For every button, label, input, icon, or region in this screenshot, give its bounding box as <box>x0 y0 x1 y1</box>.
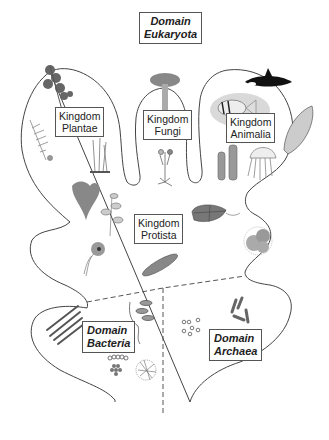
dinoflagellate-icon <box>192 205 240 222</box>
domain-archaea-label: Domain Archaea <box>209 329 262 361</box>
domain-eukaryota-label: Domain Eukaryota <box>139 12 202 44</box>
fern-icon <box>30 120 53 161</box>
flagellate-icon <box>84 242 105 276</box>
archaea-rods-icon <box>232 298 248 322</box>
rod-bacteria-icon <box>47 306 84 344</box>
domain-bacteria-line2: Bacteria <box>87 337 130 350</box>
seaweed-icon <box>72 182 100 221</box>
mushroom-icon <box>150 73 180 110</box>
kingdom-plantae-label: Kingdom Plantae <box>55 107 104 137</box>
sponge-icon <box>218 145 237 180</box>
archaea-cocci-icon <box>182 318 200 336</box>
kingdom-fungi-label: Kingdom Fungi <box>143 110 192 140</box>
domain-archaea-line1: Domain <box>214 332 257 345</box>
jellyfish-icon <box>248 148 276 181</box>
domain-divider <box>87 276 245 302</box>
kingdom-protista-line2: Protista <box>138 229 179 241</box>
domain-eukaryota-line1: Domain <box>144 15 197 28</box>
kingdom-plantae-line1: Kingdom <box>59 110 100 122</box>
kingdom-fungi-line2: Fungi <box>147 125 188 137</box>
mold-icon <box>158 150 173 187</box>
kingdom-plantae-line2: Plantae <box>59 122 100 134</box>
domain-archaea-line2: Archaea <box>214 345 257 358</box>
plant-branch-icon <box>43 65 73 110</box>
cocci-chain-icon <box>108 355 128 360</box>
diatom-icon <box>140 251 180 280</box>
kingdom-animalia-label: Kingdom Animalia <box>226 113 275 143</box>
radiolarian-icon <box>244 227 272 255</box>
clam-icon <box>284 106 313 154</box>
kingdom-protista-label: Kingdom Protista <box>134 214 183 244</box>
cocci-cluster-icon <box>110 364 122 376</box>
domain-bacteria-line1: Domain <box>87 324 130 337</box>
kingdom-protista-line1: Kingdom <box>138 217 179 229</box>
domain-eukaryota-line2: Eukaryota <box>144 28 197 41</box>
orca-icon <box>245 68 292 87</box>
kingdom-animalia-line2: Animalia <box>230 128 271 140</box>
kingdom-animalia-line1: Kingdom <box>230 116 271 128</box>
kingdom-fungi-line1: Kingdom <box>147 113 188 125</box>
domain-bacteria-label: Domain Bacteria <box>82 321 135 353</box>
filamentous-bacteria-icon <box>136 360 156 380</box>
moss-icon <box>90 138 110 172</box>
